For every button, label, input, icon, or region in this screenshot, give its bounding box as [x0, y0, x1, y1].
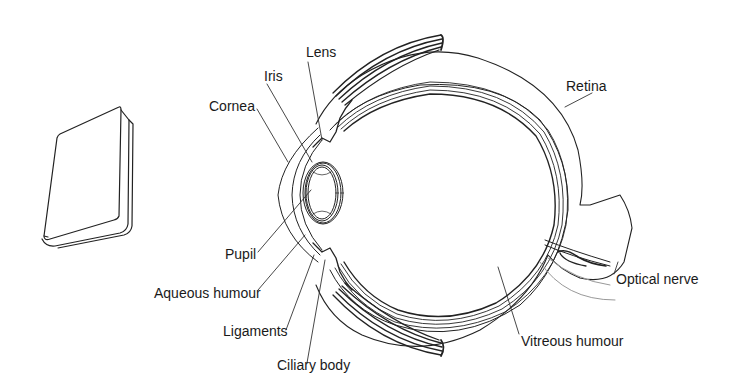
- label-lens: Lens: [306, 44, 336, 60]
- optic-nerve: [540, 240, 615, 300]
- label-aqueous-humour: Aqueous humour: [154, 285, 261, 301]
- label-vitreous-humour: Vitreous humour: [521, 333, 623, 349]
- label-retina: Retina: [566, 78, 606, 94]
- label-iris: Iris: [264, 68, 283, 84]
- cornea: [278, 128, 322, 262]
- label-cornea: Cornea: [209, 98, 255, 114]
- label-pupil: Pupil: [225, 246, 256, 262]
- label-ciliary-body: Ciliary body: [277, 357, 350, 373]
- retina-layers: [335, 82, 568, 328]
- leader-lines: [257, 62, 618, 363]
- label-ligaments: Ligaments: [223, 323, 288, 339]
- book-icon: [42, 107, 133, 248]
- eye-diagram: Lens Iris Cornea Retina Pupil Aqueous hu…: [0, 0, 731, 392]
- label-optical-nerve: Optical nerve: [616, 271, 698, 287]
- sclera-outer: [316, 52, 632, 346]
